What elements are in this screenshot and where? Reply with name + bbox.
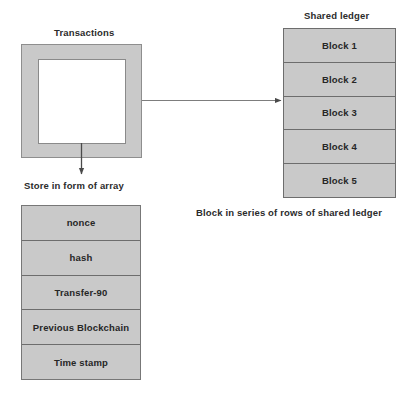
array-row-label: nonce [67, 217, 96, 228]
ledger-block: Block 5 [284, 164, 395, 197]
array-structure-table: nonce hash Transfer-90 Previous Blockcha… [21, 205, 141, 380]
shared-ledger-stack: Block 1 Block 2 Block 3 Block 4 Block 5 [283, 28, 396, 198]
transactions-inner-area [38, 59, 126, 144]
array-row: Time stamp [22, 345, 140, 379]
array-row-label: hash [70, 252, 93, 263]
array-row-label: Transfer-90 [55, 287, 108, 298]
store-in-form-of-array-label: Store in form of array [24, 180, 124, 192]
array-row: hash [22, 241, 140, 276]
array-row: nonce [22, 206, 140, 241]
array-row-label: Previous Blockchain [33, 322, 129, 333]
array-row: Transfer-90 [22, 276, 140, 311]
transactions-title: Transactions [54, 27, 114, 39]
ledger-block-label: Block 1 [322, 40, 357, 51]
ledger-block-label: Block 5 [322, 175, 357, 186]
array-row-label: Time stamp [54, 357, 108, 368]
ledger-block-label: Block 2 [322, 74, 357, 85]
shared-ledger-caption: Block in series of rows of shared ledger [196, 207, 382, 219]
ledger-block: Block 2 [284, 63, 395, 97]
diagram-canvas: Transactions Shared ledger Block 1 Block… [0, 0, 418, 399]
ledger-block-label: Block 4 [322, 141, 357, 152]
array-row: Previous Blockchain [22, 310, 140, 345]
ledger-block: Block 3 [284, 97, 395, 131]
ledger-block: Block 1 [284, 29, 395, 63]
ledger-block: Block 4 [284, 130, 395, 164]
shared-ledger-title: Shared ledger [304, 10, 369, 22]
ledger-block-label: Block 3 [322, 107, 357, 118]
